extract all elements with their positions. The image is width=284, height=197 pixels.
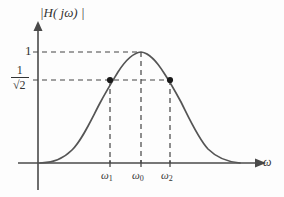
- omega-glyph: ω: [161, 169, 169, 181]
- y-tick-label-one: 1: [25, 44, 32, 57]
- fraction-numerator: 1: [11, 64, 29, 77]
- fraction-denominator: √2: [11, 78, 29, 92]
- marker-upper-cutoff: [167, 77, 173, 83]
- y-axis: [34, 21, 43, 190]
- y-axis-arrowhead: [34, 21, 43, 31]
- x-tick-label-omega2: ω2: [161, 170, 173, 183]
- plot-canvas: [0, 0, 284, 197]
- x-tick-label-omega0: ω0: [132, 170, 144, 183]
- radicand: 2: [19, 77, 27, 92]
- omega-glyph: ω: [132, 169, 140, 181]
- omega-subscript: 2: [169, 174, 173, 183]
- y-tick-label-invsqrt2: 1 √2: [11, 64, 29, 92]
- magnitude-response-curve: [40, 52, 240, 163]
- y-axis-label: |H( jω) |: [40, 6, 84, 19]
- x-axis-label: ω: [263, 156, 271, 168]
- omega-subscript: 1: [109, 174, 113, 183]
- omega-subscript: 0: [140, 174, 144, 183]
- frequency-response-figure: |H( jω) | 1 1 √2 ω1 ω0 ω2 ω: [0, 0, 284, 197]
- omega-glyph: ω: [101, 169, 109, 181]
- x-tick-label-omega1: ω1: [101, 170, 113, 183]
- marker-lower-cutoff: [107, 77, 113, 83]
